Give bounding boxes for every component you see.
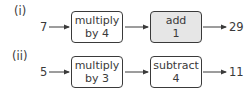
arrows-layer	[0, 0, 251, 99]
